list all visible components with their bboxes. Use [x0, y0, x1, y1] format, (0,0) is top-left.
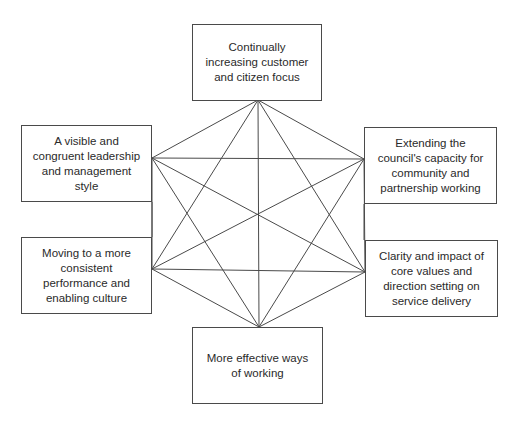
- edge-top-left-top: [152, 100, 258, 158]
- node-performance-enabling-culture: Moving to a more consistent performance …: [21, 237, 152, 314]
- node-label: Continually increasing customer and citi…: [201, 40, 313, 85]
- diagram-canvas: Continually increasing customer and citi…: [0, 0, 520, 426]
- edge-top-left-bottom: [152, 100, 258, 269]
- node-leadership-management-style: A visible and congruent leadership and m…: [21, 125, 152, 202]
- node-effective-ways-of-working: More effective ways of working: [192, 327, 323, 404]
- node-label: Moving to a more consistent performance …: [30, 246, 143, 306]
- node-community-partnership-working: Extending the council's capacity for com…: [364, 127, 497, 204]
- edge-right-top-bottom: [259, 159, 364, 327]
- node-label: More effective ways of working: [201, 351, 314, 381]
- edge-left-top-right-top: [152, 158, 364, 159]
- node-core-values-direction: Clarity and impact of core values and di…: [365, 240, 498, 317]
- node-customer-citizen-focus: Continually increasing customer and citi…: [192, 24, 322, 101]
- node-label: Clarity and impact of core values and di…: [374, 249, 489, 309]
- edge-right-bottom-bottom: [259, 272, 365, 327]
- node-label: Extending the council's capacity for com…: [373, 136, 488, 196]
- edge-left-bottom-bottom: [152, 269, 259, 327]
- edge-top-right-top: [258, 100, 364, 159]
- node-label: A visible and congruent leadership and m…: [30, 134, 143, 194]
